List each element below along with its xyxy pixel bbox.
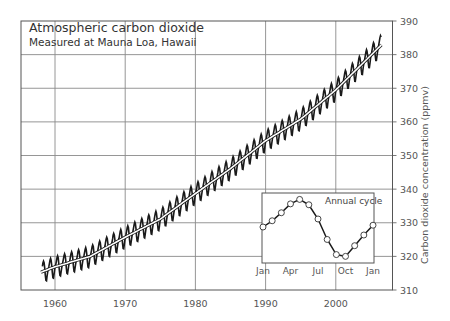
annual-cycle-marker [361, 232, 367, 238]
annual-cycle-marker [352, 243, 358, 249]
chart-subtitle: Measured at Mauna Loa, Hawaii [29, 36, 196, 48]
annual-cycle-marker [288, 201, 294, 207]
y-tick-label: 390 [400, 16, 418, 27]
annual-cycle-marker [269, 218, 275, 224]
inset-month-label: Oct [338, 266, 354, 276]
y-tick-label: 310 [400, 285, 418, 296]
x-tick-label: 2000 [324, 298, 348, 309]
annual-cycle-marker [370, 222, 376, 228]
annual-cycle-marker [315, 216, 321, 222]
inset-month-label: Jan [255, 266, 270, 276]
inset-month-label: Jan [365, 266, 380, 276]
annual-cycle-marker [306, 202, 312, 208]
y-tick-label: 330 [400, 217, 418, 228]
inset-month-label: Apr [283, 266, 299, 276]
y-axis-ticks: 310320330340350360370380390 [393, 16, 419, 296]
annual-cycle-marker [333, 252, 339, 258]
y-tick-label: 340 [400, 184, 418, 195]
y-tick-label: 360 [400, 116, 418, 127]
chart-title: Atmospheric carbon dioxide [29, 21, 204, 35]
y-tick-label: 370 [400, 83, 418, 94]
y-tick-label: 380 [400, 49, 418, 60]
x-tick-label: 1970 [113, 298, 137, 309]
annual-cycle-marker [278, 210, 284, 216]
inset-title: Annual cycle [325, 196, 382, 206]
x-axis-ticks: 19601970198019902000 [43, 298, 348, 309]
y-tick-label: 320 [400, 251, 418, 262]
inset-month-label: Jul [312, 266, 324, 276]
co2-chart: JanAprJulOctJan 19601970198019902000 310… [0, 0, 450, 321]
y-tick-label: 350 [400, 150, 418, 161]
x-tick-label: 1990 [254, 298, 278, 309]
annual-cycle-marker [324, 236, 330, 242]
annual-cycle-marker [297, 196, 303, 202]
y-axis-label: Carbon dioxide concentration (ppmv) [419, 86, 430, 264]
annual-cycle-marker [343, 253, 349, 259]
annual-cycle-marker [260, 224, 266, 230]
x-tick-label: 1980 [183, 298, 207, 309]
x-tick-label: 1960 [43, 298, 67, 309]
